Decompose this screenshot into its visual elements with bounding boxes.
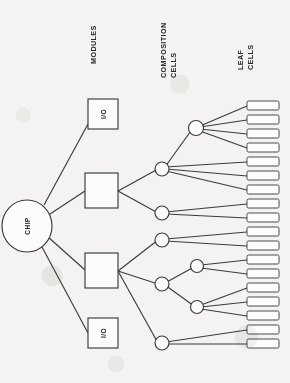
edge-cc7-leaf-16	[201, 309, 247, 316]
column-label-leaf-line-2: CELLS	[246, 44, 255, 70]
leaf-cells-group	[247, 101, 279, 348]
leaf-cell[interactable]	[247, 241, 279, 250]
edge-cc5-cc7	[165, 285, 194, 306]
edge-cc4-leaf-11	[166, 241, 247, 246]
leaf-cell[interactable]	[247, 185, 279, 194]
composition-cell-cc2[interactable]	[189, 121, 204, 136]
edge-cc1-leaf-6	[166, 169, 247, 176]
leaf-cell[interactable]	[247, 171, 279, 180]
edge-cc6-leaf-12	[201, 260, 247, 265]
composition-cell-cc4[interactable]	[155, 233, 169, 247]
edges-module2-to-cells	[118, 240, 158, 343]
node-module-1[interactable]	[85, 173, 118, 208]
leaf-cell[interactable]	[247, 297, 279, 306]
leaf-cell[interactable]	[247, 101, 279, 110]
leaf-cell[interactable]	[247, 227, 279, 236]
node-io-bottom[interactable]: I/O	[88, 318, 118, 348]
edges-cc7-to-leaves	[201, 288, 247, 316]
module-2-box	[85, 253, 118, 288]
column-label-modules-line-1: MODULES	[89, 25, 98, 64]
edges-cc3-to-leaves	[166, 204, 247, 218]
composition-cell-cc6[interactable]	[191, 260, 204, 273]
figure-canvas: CHIP I/O I/O	[0, 0, 290, 383]
leaf-cell[interactable]	[247, 255, 279, 264]
node-io-top[interactable]: I/O	[88, 99, 118, 129]
composition-cells-group	[155, 121, 204, 351]
edge-module2-cc4	[118, 240, 158, 271]
edges-cc2-to-leaves	[200, 106, 247, 148]
edge-cc1-cc2	[165, 128, 193, 167]
edges-cell-to-cell	[165, 128, 194, 306]
hierarchy-diagram: CHIP I/O I/O	[0, 0, 290, 383]
edges-cc4-to-leaves	[166, 232, 247, 246]
edge-cc3-leaf-8	[166, 204, 247, 212]
edge-chip-io-bottom	[42, 247, 88, 333]
leaf-cell[interactable]	[247, 129, 279, 138]
leaf-cell[interactable]	[247, 269, 279, 278]
column-label-leaf-line-1: LEAF	[236, 49, 245, 70]
edge-cc5-cc6	[165, 267, 194, 283]
column-label-modules: MODULES	[89, 25, 98, 64]
edges-cc6-to-leaves	[201, 260, 247, 274]
node-module-2[interactable]	[85, 253, 118, 288]
column-label-composition-line-2: CELLS	[169, 52, 178, 78]
edge-cc3-leaf-9	[166, 214, 247, 218]
chip-label: CHIP	[24, 217, 31, 235]
edge-chip-module-1	[47, 191, 85, 216]
column-label-leaf-cells: LEAF CELLS	[236, 44, 255, 70]
composition-cell-cc3[interactable]	[155, 206, 169, 220]
edge-module1-cc3	[118, 191, 158, 213]
composition-cell-cc5[interactable]	[155, 277, 169, 291]
edge-cc6-leaf-13	[201, 268, 247, 274]
leaf-cell[interactable]	[247, 199, 279, 208]
edge-cc1-leaf-7	[166, 171, 247, 190]
leaf-cell[interactable]	[247, 157, 279, 166]
io-bottom-label: I/O	[100, 328, 107, 338]
leaf-cell[interactable]	[247, 283, 279, 292]
edge-cc4-leaf-10	[166, 232, 247, 239]
module-1-box	[85, 173, 118, 208]
leaf-cell[interactable]	[247, 311, 279, 320]
edges-cc1-to-leaves	[166, 162, 247, 190]
composition-cell-cc7[interactable]	[191, 301, 204, 314]
node-chip[interactable]: CHIP	[2, 200, 52, 252]
io-top-label: I/O	[100, 109, 107, 119]
edge-chip-module-2	[47, 236, 85, 270]
leaf-cell[interactable]	[247, 143, 279, 152]
edge-module1-cc1	[118, 169, 158, 191]
composition-cell-cc8[interactable]	[155, 336, 169, 350]
leaf-cell[interactable]	[247, 213, 279, 222]
edge-cc1-leaf-5	[166, 162, 247, 167]
composition-cell-cc1[interactable]	[155, 162, 169, 176]
leaf-cell[interactable]	[247, 325, 279, 334]
column-label-composition-line-1: COMPOSITION	[159, 22, 168, 78]
edges-module1-to-cells	[118, 169, 158, 213]
edge-cc8-leaf-17	[166, 330, 247, 342]
column-label-composition-cells: COMPOSITION CELLS	[159, 22, 178, 78]
edges-cc8-to-leaves	[166, 330, 247, 344]
leaf-cell[interactable]	[247, 339, 279, 348]
leaf-cell[interactable]	[247, 115, 279, 124]
